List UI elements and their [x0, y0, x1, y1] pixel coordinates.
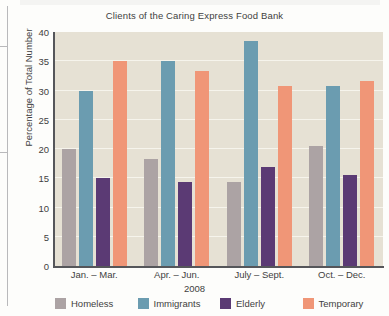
legend-label: Temporary	[319, 299, 364, 309]
bar	[360, 81, 374, 266]
y-tick-label: 5	[19, 231, 49, 242]
plot-area	[53, 32, 383, 266]
bar	[79, 91, 93, 267]
bar	[195, 71, 209, 266]
legend-item-temporary[interactable]: Temporary	[303, 298, 364, 309]
bar	[227, 182, 241, 266]
bar-group	[136, 32, 219, 266]
bar	[178, 182, 192, 266]
bar	[161, 61, 175, 266]
chart-title: Clients of the Caring Express Food Bank	[0, 10, 389, 21]
x-tick-label: Oct. – Dec.	[318, 269, 366, 280]
legend-item-homeless[interactable]: Homeless	[55, 298, 138, 309]
legend-label: Homeless	[71, 299, 113, 309]
bar	[96, 178, 110, 266]
bar-group	[53, 32, 136, 266]
legend-label: Elderly	[236, 299, 265, 309]
bar	[278, 86, 292, 266]
legend-item-elderly[interactable]: Elderly	[220, 298, 303, 309]
legend-swatch-icon	[303, 298, 314, 309]
bar	[244, 41, 258, 266]
bar	[343, 175, 357, 266]
x-axis-title: 2008	[0, 283, 389, 294]
bar	[113, 61, 127, 266]
scan-noise-band	[20, 0, 380, 5]
bar	[144, 159, 158, 266]
bar-group	[301, 32, 384, 266]
x-tick-label: Jan. – Mar.	[71, 269, 118, 280]
y-axis-title: Percentage of Total Number	[23, 3, 34, 173]
page-margin-tick	[0, 152, 8, 153]
x-axis-line	[53, 266, 384, 268]
legend-swatch-icon	[220, 298, 231, 309]
legend-item-immigrants[interactable]: Immigrants	[138, 298, 221, 309]
page-margin-rule	[7, 6, 8, 306]
y-axis-line	[53, 32, 55, 267]
y-tick-label: 10	[19, 202, 49, 213]
bar	[326, 86, 340, 266]
x-tick-label: July – Sept.	[234, 269, 284, 280]
chart-legend: HomelessImmigrantsElderlyTemporary	[55, 298, 385, 309]
chart-figure: Clients of the Caring Express Food Bank …	[0, 0, 389, 316]
bar	[309, 146, 323, 266]
bar	[261, 167, 275, 266]
bar-group	[218, 32, 301, 266]
legend-label: Immigrants	[154, 299, 201, 309]
y-tick-label: 0	[19, 261, 49, 272]
y-tick-label: 15	[19, 173, 49, 184]
page-margin-tick	[0, 46, 8, 47]
bar	[62, 149, 76, 266]
x-tick-label: Apr. – Jun.	[154, 269, 199, 280]
legend-swatch-icon	[138, 298, 149, 309]
legend-swatch-icon	[55, 298, 66, 309]
